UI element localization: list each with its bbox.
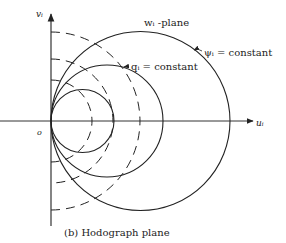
- hodograph-diagram: vᵢ uᵢ o wᵢ -plane ψᵢ = constant qᵢ = con…: [0, 0, 286, 243]
- figure-caption: (b) Hodograph plane: [64, 227, 170, 238]
- axes: [0, 14, 253, 226]
- psi-annotation: ψᵢ = constant: [204, 47, 272, 58]
- u-axis-label: uᵢ: [256, 118, 264, 128]
- v-axis-label: vᵢ: [36, 9, 43, 19]
- q-annotation: qᵢ = constant: [131, 61, 198, 72]
- q-leader-arrow: [124, 66, 129, 67]
- origin-label: o: [37, 128, 42, 137]
- plane-label: wᵢ -plane: [144, 17, 189, 28]
